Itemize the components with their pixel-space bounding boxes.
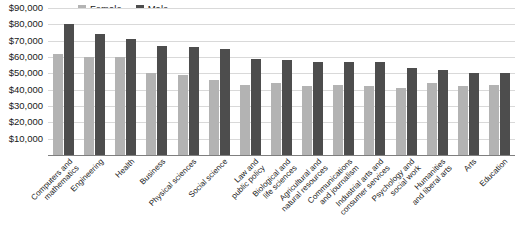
bar-male[interactable] [344,62,354,155]
bar-group [266,8,297,155]
x-axis-category-label: Business [138,157,167,186]
bar-female[interactable] [53,54,63,155]
x-axis-line [48,155,515,156]
bar-group [484,8,515,155]
bar-female[interactable] [209,80,219,155]
bar-male[interactable] [438,70,448,155]
bar-group [359,8,390,155]
y-axis-tick-label: $80,000 [9,19,43,29]
bar-male[interactable] [126,39,136,155]
x-axis-category-label: Health [113,157,136,180]
bar-male[interactable] [282,60,292,155]
bar-male[interactable] [251,59,261,155]
bars-layer [48,8,515,155]
bar-female[interactable] [396,88,406,155]
bar-female[interactable] [458,86,468,155]
x-axis-category-label-line: Arts [462,157,478,173]
bar-group [204,8,235,155]
bar-male[interactable] [407,68,417,155]
bar-group [391,8,422,155]
bar-female[interactable] [146,73,156,155]
bar-group [141,8,172,155]
bar-male[interactable] [500,73,510,155]
bar-group [235,8,266,155]
y-axis-tick-label: $70,000 [9,36,43,46]
bar-female[interactable] [178,75,188,155]
bar-group [328,8,359,155]
y-axis: $10,000$20,000$30,000$40,000$50,000$60,0… [0,0,46,160]
x-axis-category-label: Education [478,157,510,189]
bar-female[interactable] [302,86,312,155]
bar-male[interactable] [95,34,105,155]
bar-male[interactable] [220,49,230,155]
bar-group [110,8,141,155]
bar-group [422,8,453,155]
bar-male[interactable] [313,62,323,155]
y-axis-tick-label: $10,000 [9,134,43,144]
y-axis-tick-label: $20,000 [9,117,43,127]
bar-female[interactable] [333,85,343,155]
bar-male[interactable] [469,73,479,155]
bar-female[interactable] [271,83,281,155]
bar-female[interactable] [489,85,499,155]
y-axis-tick-label: $90,000 [9,3,43,13]
bar-male[interactable] [189,47,199,155]
bar-group [79,8,110,155]
bar-male[interactable] [157,46,167,155]
bar-group [297,8,328,155]
x-axis-category-label-line: Health [113,157,136,180]
bar-female[interactable] [364,86,374,155]
bar-chart: FemaleMale $10,000$20,000$30,000$40,000$… [0,0,520,232]
bar-group [453,8,484,155]
bar-male[interactable] [375,62,385,155]
bar-female[interactable] [84,57,94,155]
y-axis-tick-label: $50,000 [9,68,43,78]
bar-male[interactable] [64,24,74,155]
x-axis-category-label-line: Education [478,157,510,189]
y-axis-tick-label: $60,000 [9,52,43,62]
bar-group [48,8,79,155]
bar-female[interactable] [427,83,437,155]
bar-female[interactable] [240,85,250,155]
bar-group [173,8,204,155]
y-axis-tick-label: $40,000 [9,85,43,95]
bar-female[interactable] [115,57,125,155]
x-axis-category-label-line: Business [138,157,167,186]
x-axis-category-label: Arts [462,157,478,173]
y-axis-tick-label: $30,000 [9,101,43,111]
x-axis-category-labels: Computers andmathematicsEngineeringHealt… [48,157,515,232]
